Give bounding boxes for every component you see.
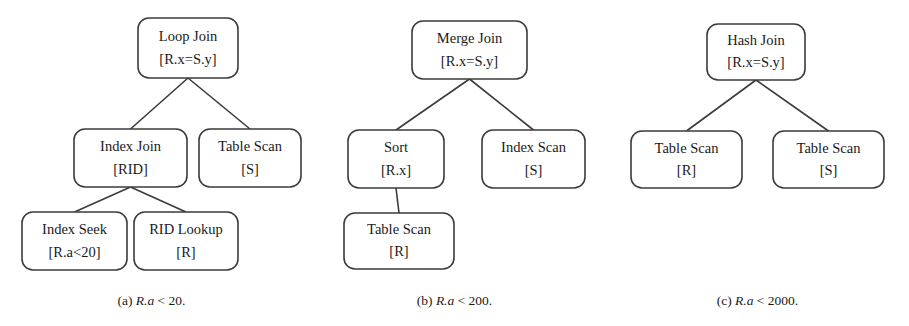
plan-node-a-r1: Table Scan[S] [199,129,301,187]
plan-node-a-root: Loop Join[R.x=S.y] [138,18,238,78]
caption-panel-c: (c) R.a < 2000. [606,293,909,309]
caption-label: (b) [417,293,436,308]
plan-trees-canvas: Loop Join[R.x=S.y]Index Join[RID]Table S… [0,0,909,326]
caption-panel-b: (b) R.a < 200. [303,293,606,309]
node-argument-label: [R] [677,162,696,178]
node-operator-label: Table Scan [218,138,283,154]
node-operator-label: Index Scan [501,139,567,155]
plan-node-a-r2: RID Lookup[R] [134,212,238,270]
node-operator-label: Merge Join [437,30,503,46]
plan-node-b-l1: Sort[R.x] [348,130,444,188]
caption-label: (c) [717,293,735,308]
node-operator-label: RID Lookup [149,221,223,237]
node-argument-label: [S] [820,162,838,178]
plan-node-c-l1: Table Scan[R] [631,131,742,188]
panel-c-edges [687,80,829,131]
node-argument-label: [R.a<20] [48,244,100,260]
plan-node-b-r1: Index Scan[S] [482,130,585,188]
node-argument-label: [RID] [113,161,148,177]
node-operator-label: Table Scan [367,221,432,237]
plan-node-c-root: Hash Join[R.x=S.y] [707,24,805,80]
caption-tail: < 200. [454,293,492,308]
caption-panel-a: (a) R.a < 20. [0,293,303,309]
node-argument-label: [R.x] [381,162,411,178]
caption-label: (a) [118,293,136,308]
plan-edge [396,79,470,130]
caption-tail: < 20. [154,293,185,308]
node-argument-label: [R] [389,243,408,259]
caption-expression: R.a [436,293,454,308]
plan-node-b-root: Merge Join[R.x=S.y] [412,21,527,79]
plan-edge [131,78,189,129]
node-argument-label: [R.x=S.y] [727,54,784,70]
caption-tail: < 2000. [753,293,798,308]
plan-edge [687,80,757,131]
plan-edge [396,188,399,213]
plan-edge [188,78,250,129]
plan-node-a-l2: Index Seek[R.a<20] [22,212,127,270]
node-operator-label: Table Scan [797,140,862,156]
plan-edge [470,79,534,130]
node-operator-label: Loop Join [159,28,218,44]
node-operator-label: Sort [384,139,408,155]
node-argument-label: [S] [241,161,259,177]
plan-edge [756,80,829,131]
plan-edge [75,187,131,212]
query-plan-figure: Loop Join[R.x=S.y]Index Join[RID]Table S… [0,0,909,326]
caption-expression: R.a [136,293,154,308]
plan-edge [131,187,187,212]
node-operator-label: Table Scan [655,140,720,156]
node-operator-label: Hash Join [727,32,785,48]
plan-node-a-l1: Index Join[RID] [74,129,187,187]
caption-expression: R.a [735,293,753,308]
node-argument-label: [R.x=S.y] [159,51,216,67]
plan-node-c-r1: Table Scan[S] [773,131,884,188]
plan-node-b-l2: Table Scan[R] [344,213,454,269]
node-argument-label: [R.x=S.y] [441,53,498,69]
node-operator-label: Index Join [100,138,162,154]
node-argument-label: [S] [525,162,543,178]
node-argument-label: [R] [176,244,195,260]
node-operator-label: Index Seek [42,221,108,237]
